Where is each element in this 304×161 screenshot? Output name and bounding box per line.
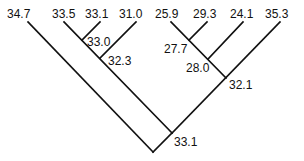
leaf-labels: 34.7 33.5 33.1 31.0 25.9 29.3 24.1 35.3 [7, 7, 289, 21]
tree-diagram: 34.7 33.5 33.1 31.0 25.9 29.3 24.1 35.3 … [0, 0, 304, 161]
edge-root-n6 [153, 133, 172, 152]
leaf-label-8: 35.3 [265, 7, 289, 21]
edge-n3-l6 [189, 22, 207, 40]
node-label-n1: 33.0 [87, 35, 111, 49]
leaf-label-6: 29.3 [193, 7, 217, 21]
leaf-label-7: 24.1 [230, 7, 254, 21]
leaf-label-4: 31.0 [119, 7, 143, 21]
node-label-n6: 33.1 [174, 135, 198, 149]
node-label-n3: 27.7 [164, 42, 188, 56]
leaf-label-1: 34.7 [7, 7, 31, 21]
leaf-label-2: 33.5 [52, 7, 76, 21]
node-label-n5: 32.1 [229, 78, 253, 92]
leaf-label-3: 33.1 [85, 7, 109, 21]
node-label-n2: 32.3 [108, 54, 132, 68]
node-label-n4: 28.0 [186, 61, 210, 75]
edge-n4-l7 [208, 22, 243, 59]
leaf-label-5: 25.9 [155, 7, 179, 21]
